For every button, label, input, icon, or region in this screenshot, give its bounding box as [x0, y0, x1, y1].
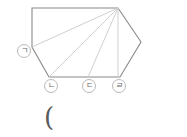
vertex-label-d: ㄷ	[82, 79, 96, 93]
vertex-label-g: ㄱ	[17, 44, 31, 58]
vertex-label-n: ㄴ	[44, 79, 58, 93]
hexagon-outline	[32, 8, 141, 77]
vertex-label-r: ㄹ	[112, 79, 126, 93]
caption-open-paren: (	[44, 104, 54, 130]
geometry-canvas	[0, 0, 187, 137]
geometry-figure: ㄱ ㄴ ㄷ ㄹ (	[0, 0, 187, 137]
